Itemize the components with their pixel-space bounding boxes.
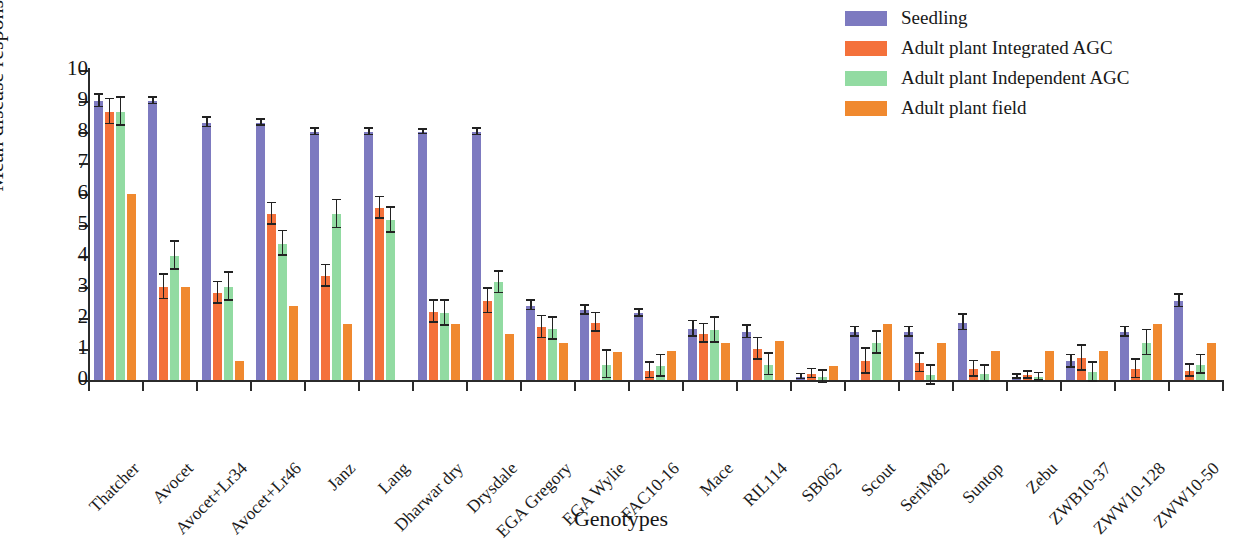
error-bar-line xyxy=(1200,355,1202,374)
error-bar-cap xyxy=(1174,293,1183,295)
bar[interactable] xyxy=(904,332,913,380)
bar[interactable] xyxy=(721,343,730,380)
error-bar-cap xyxy=(483,312,492,314)
error-bar-cap xyxy=(904,335,913,337)
bar[interactable] xyxy=(634,313,643,380)
error-bar-cap xyxy=(310,134,319,136)
error-bar-cap xyxy=(213,302,222,304)
x-tick-mark xyxy=(1114,382,1116,391)
bar[interactable] xyxy=(105,112,114,380)
bar[interactable] xyxy=(289,306,298,380)
bar[interactable] xyxy=(742,332,751,380)
error-bar-line xyxy=(1146,330,1148,355)
bar[interactable] xyxy=(278,244,287,380)
bar[interactable] xyxy=(213,293,222,380)
error-bar-cap xyxy=(1066,354,1075,356)
bar[interactable] xyxy=(332,214,341,380)
bar-group xyxy=(844,70,898,380)
bar[interactable] xyxy=(94,101,103,380)
bar[interactable] xyxy=(310,132,319,380)
error-bar-line xyxy=(552,318,554,340)
bar[interactable] xyxy=(1174,301,1183,380)
bar[interactable] xyxy=(127,194,136,380)
bar[interactable] xyxy=(937,343,946,380)
error-bar-line xyxy=(109,99,111,124)
x-tick-mark xyxy=(466,382,468,391)
bar[interactable] xyxy=(991,351,1000,380)
y-tick-label: 9 xyxy=(78,88,89,110)
bar[interactable] xyxy=(958,323,967,380)
bar[interactable] xyxy=(613,352,622,380)
bar-group xyxy=(682,70,736,380)
error-bar-cap xyxy=(278,230,287,232)
bar[interactable] xyxy=(159,287,168,380)
bar-group xyxy=(1006,70,1060,380)
bar[interactable] xyxy=(148,101,157,380)
bar[interactable] xyxy=(1099,351,1108,380)
bar[interactable] xyxy=(883,324,892,380)
error-bar-cap xyxy=(224,299,233,301)
bar[interactable] xyxy=(343,324,352,380)
bar[interactable] xyxy=(418,132,427,380)
bar[interactable] xyxy=(364,132,373,380)
bar[interactable] xyxy=(472,132,481,380)
bar[interactable] xyxy=(667,351,676,380)
error-bar-cap xyxy=(1185,375,1194,377)
bar[interactable] xyxy=(559,343,568,380)
bar-group xyxy=(466,70,520,380)
bar[interactable] xyxy=(375,208,384,380)
bar[interactable] xyxy=(116,112,125,380)
error-bar-line xyxy=(120,98,122,126)
bar[interactable] xyxy=(181,287,190,380)
bar[interactable] xyxy=(1153,324,1162,380)
error-bar-cap xyxy=(1142,329,1151,331)
bar[interactable] xyxy=(526,306,535,380)
bar[interactable] xyxy=(170,256,179,380)
x-tick-mark xyxy=(250,382,252,391)
bar[interactable] xyxy=(451,324,460,380)
bar[interactable] xyxy=(494,282,503,380)
bar[interactable] xyxy=(829,366,838,380)
bar[interactable] xyxy=(505,334,514,381)
bar-group xyxy=(952,70,1006,380)
bar[interactable] xyxy=(235,361,244,380)
error-bar-cap xyxy=(861,372,870,374)
bar-group xyxy=(1168,70,1222,380)
bar[interactable] xyxy=(256,123,265,380)
error-bar-cap xyxy=(969,375,978,377)
legend-item[interactable]: Adult plant Integrated AGC xyxy=(845,38,1130,58)
bar[interactable] xyxy=(1207,343,1216,380)
bar[interactable] xyxy=(1120,332,1129,380)
x-tick-mark xyxy=(412,382,414,391)
bar[interactable] xyxy=(580,310,589,380)
x-tick-mark xyxy=(682,382,684,391)
x-axis-category-label: Janz xyxy=(323,458,360,495)
error-bar-cap xyxy=(1012,377,1021,379)
error-bar-cap xyxy=(105,123,114,125)
bar[interactable] xyxy=(267,214,276,380)
error-bar-line xyxy=(228,273,230,301)
x-tick-mark xyxy=(628,382,630,391)
x-axis-category-label: SB062 xyxy=(797,458,846,507)
x-axis-category-label: Zebu xyxy=(1022,458,1062,498)
error-bar-cap xyxy=(116,96,125,98)
bar-group xyxy=(574,70,628,380)
x-tick-mark xyxy=(574,382,576,391)
y-tick-label: 2 xyxy=(78,305,89,327)
error-bar-cap xyxy=(494,270,503,272)
bar[interactable] xyxy=(202,123,211,380)
bar-group xyxy=(358,70,412,380)
bar[interactable] xyxy=(386,220,395,380)
error-bar-line xyxy=(325,265,327,287)
bar[interactable] xyxy=(850,332,859,380)
error-bar-line xyxy=(930,366,932,385)
legend-color-swatch xyxy=(845,11,887,26)
bar[interactable] xyxy=(775,341,784,380)
error-bar-cap xyxy=(213,281,222,283)
bar[interactable] xyxy=(321,276,330,380)
error-bar-cap xyxy=(904,326,913,328)
bar[interactable] xyxy=(1045,351,1054,380)
legend-item-label: Adult plant Integrated AGC xyxy=(901,38,1113,58)
legend-item[interactable]: Seedling xyxy=(845,8,1130,28)
error-bar-cap xyxy=(764,374,773,376)
